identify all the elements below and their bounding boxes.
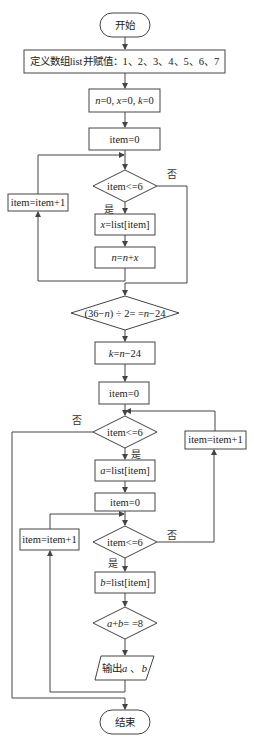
item-init-label-1: item=0 [110,134,140,145]
decision-3-label: item<=6 [107,537,143,548]
decision-1-label: item<=6 [107,181,143,192]
end-terminal: 结束 [100,710,150,734]
no-label-2: 否 [72,415,82,426]
init-vars-label: n=0, x=0, k=0 [95,95,154,106]
yes-label-2: 是 [131,449,141,460]
item-init-box-3: item=0 [95,493,155,511]
loop-back-arrow-3 [50,514,124,529]
increment-box-3: item=item+1 [20,529,79,550]
assign-a-box: a=list[item] [95,460,155,481]
decision-item-le-6-2: item<=6 [93,416,157,448]
no-label-3: 否 [167,530,177,541]
decision-item-le-6-1: item<=6 [93,170,157,202]
define-list-box: 定义数组list并赋值：1、2、3、4、5、6、7 [24,50,225,73]
decision-sum-label: a+b= =8 [107,618,143,629]
sum-n-box: n=n+x [95,247,155,268]
no-branch-arrow-1 [125,186,187,295]
start-label: 开始 [115,19,136,31]
end-label: 结束 [115,716,136,728]
assign-x-label: x=list[item] [99,219,149,230]
increment-box-2: item=item+1 [185,431,246,449]
item-init-label-2: item=0 [109,388,139,399]
no-branch-arrow-3 [157,450,214,542]
decision-sum-eq-8: a+b= =8 [93,607,157,639]
start-terminal: 开始 [100,13,150,37]
item-init-label-3: item=0 [110,497,140,508]
increment-label-3: item=item+1 [22,534,76,545]
decision-item-le-6-3: item<=6 [93,526,157,558]
assign-k-box: k=n−24 [95,342,155,364]
assign-k-label: k=n−24 [109,348,142,359]
increment-label-2: item=item+1 [188,434,242,445]
assign-a-label: a=list[item] [100,465,150,476]
decision-2-label: item<=6 [107,427,143,438]
decision-check-label: (36−n) ÷ 2= =n−24 [84,308,166,320]
init-vars-box: n=0, x=0, k=0 [89,89,160,112]
increment-label-1: item=item+1 [11,197,65,208]
define-list-label: 定义数组list并赋值：1、2、3、4、5、6、7 [30,55,220,67]
no-label-1: 否 [167,169,177,180]
assign-b-label: b=list[item] [100,577,150,588]
assign-x-box: x=list[item] [95,214,155,235]
item-init-box-1: item=0 [89,128,160,150]
decision-check-n: (36−n) ÷ 2= =n−24 [71,296,179,330]
yes-label-3: 是 [108,558,118,569]
yes-label-1: 是 [104,204,114,215]
assign-b-box: b=list[item] [95,572,155,593]
sum-n-label: n=n+x [111,252,138,263]
output-box: 输出a 、b [95,656,154,680]
increment-box-1: item=item+1 [8,194,68,211]
item-init-box-2: item=0 [99,382,149,404]
flowchart: 开始 定义数组list并赋值：1、2、3、4、5、6、7 n=0, x=0, k… [0,0,254,744]
